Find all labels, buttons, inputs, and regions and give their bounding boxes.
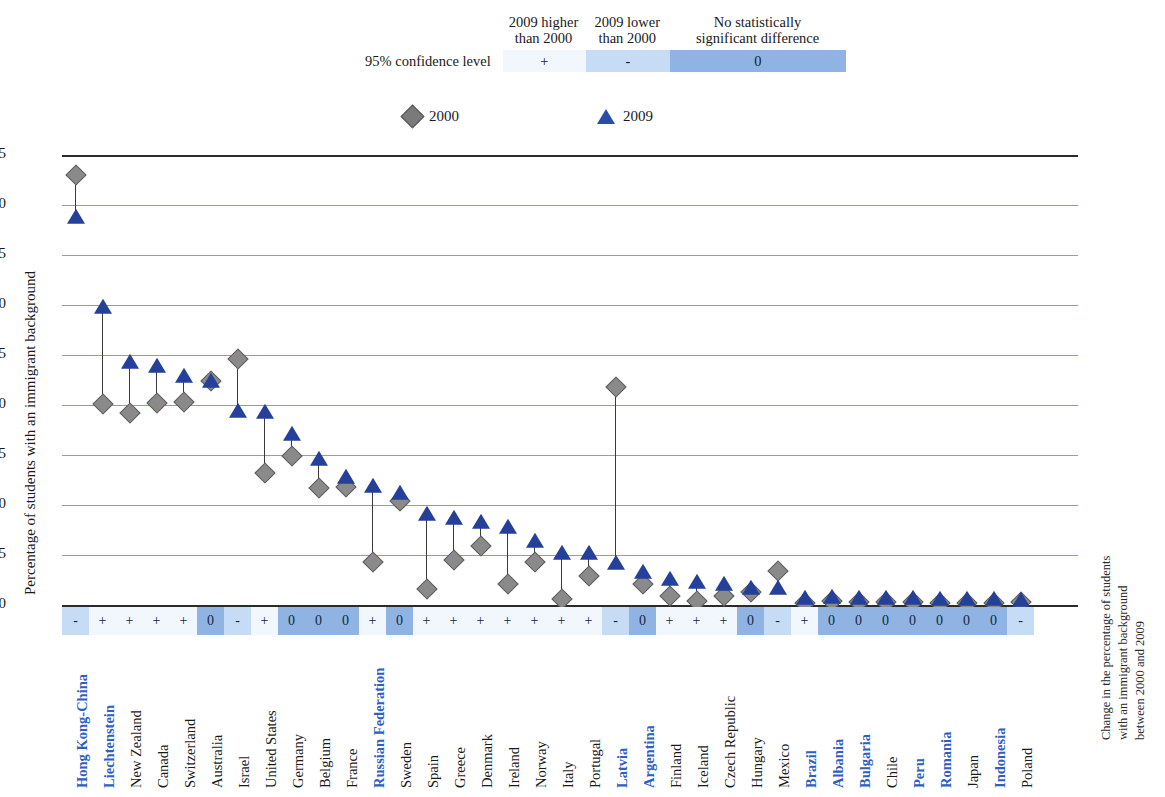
category-label: Argentina — [629, 640, 656, 790]
significance-cell: 0 — [953, 607, 980, 635]
category-label: Liechtenstein — [89, 640, 116, 790]
significance-cell: + — [359, 607, 386, 635]
point-2009 — [634, 564, 652, 579]
data-column — [980, 155, 1007, 605]
category-label: Czech Republic — [710, 640, 737, 790]
data-column — [467, 155, 494, 605]
point-2009 — [499, 519, 517, 534]
category-label: Italy — [548, 640, 575, 790]
significance-cell: 0 — [332, 607, 359, 635]
point-2000 — [362, 551, 383, 572]
y-tick-label-40: 40 — [0, 195, 6, 212]
significance-cell: + — [521, 607, 548, 635]
connector-stem — [615, 387, 616, 564]
point-2009 — [229, 403, 247, 418]
significance-strip: -++++0-+000+0+++++++-0+++0-+0000000- — [62, 607, 1034, 635]
chart-page: 2009 higher than 2000 2009 lower than 20… — [0, 0, 1165, 797]
y-tick-label-15: 15 — [0, 445, 6, 462]
category-label: Iceland — [683, 640, 710, 790]
category-label: Latvia — [602, 640, 629, 790]
category-label-text: Israel — [237, 756, 251, 788]
point-2000 — [659, 585, 680, 606]
category-label-text: Hong Kong-China — [75, 674, 89, 788]
category-label-text: Hungary — [750, 737, 764, 788]
significance-cell: + — [413, 607, 440, 635]
category-label: Sweden — [386, 640, 413, 790]
category-label-text: Czech Republic — [723, 696, 737, 788]
y-tick-label-5: 5 — [0, 545, 6, 562]
category-label-text: Liechtenstein — [102, 705, 116, 788]
point-2009 — [850, 590, 868, 605]
data-column — [116, 155, 143, 605]
point-2009 — [364, 478, 382, 493]
category-label-text: Albania — [831, 739, 845, 788]
significance-cell: 0 — [818, 607, 845, 635]
series-legend-2009-label: 2009 — [623, 108, 653, 125]
point-2009 — [283, 426, 301, 441]
legend-header-higher: 2009 higher than 2000 — [502, 14, 586, 46]
category-label-text: Russian Federation — [372, 668, 386, 788]
point-2009 — [985, 591, 1003, 606]
category-label-text: Romania — [939, 732, 953, 788]
category-label-text: Denmark — [480, 734, 494, 788]
y-tick-label-20: 20 — [0, 395, 6, 412]
spacer — [316, 14, 502, 46]
triangle-marker-icon — [597, 109, 615, 124]
data-column — [926, 155, 953, 605]
point-2009 — [553, 545, 571, 560]
significance-cell: 0 — [926, 607, 953, 635]
category-label: Romania — [926, 640, 953, 790]
data-column — [143, 155, 170, 605]
category-label: Hong Kong-China — [62, 640, 89, 790]
category-label: Mexico — [764, 640, 791, 790]
category-label-text: Japan — [966, 755, 980, 788]
category-label-text: Iceland — [696, 745, 710, 788]
significance-cell: + — [89, 607, 116, 635]
category-label: Denmark — [467, 640, 494, 790]
point-2000 — [416, 578, 437, 599]
significance-cell: + — [143, 607, 170, 635]
point-2000 — [254, 462, 275, 483]
data-column — [359, 155, 386, 605]
category-label: Portugal — [575, 640, 602, 790]
point-2000 — [227, 348, 248, 369]
significance-cell: - — [1007, 607, 1034, 635]
category-label: Australia — [197, 640, 224, 790]
data-column — [710, 155, 737, 605]
category-label: Israel — [224, 640, 251, 790]
category-label-text: Germany — [291, 734, 305, 788]
series-legend-2000: 2000 — [404, 108, 459, 125]
point-2000 — [497, 573, 518, 594]
category-label-text: United States — [264, 710, 278, 788]
significance-cell: 0 — [737, 607, 764, 635]
point-2009 — [742, 580, 760, 595]
point-2009 — [931, 591, 949, 606]
point-2009 — [202, 373, 220, 388]
point-2009 — [337, 469, 355, 484]
legend-swatch-minus: - — [586, 50, 669, 72]
point-2000 — [524, 551, 545, 572]
point-2000 — [173, 391, 194, 412]
category-label-text: Norway — [534, 741, 548, 788]
category-label-text: Indonesia — [993, 728, 1007, 788]
right-axis-title-line: Change in the percentage of students — [1098, 556, 1115, 740]
category-label: Brazil — [791, 640, 818, 790]
y-tick-label-45: 45 — [0, 145, 6, 162]
category-label-text: Ireland — [507, 747, 521, 788]
category-label: Peru — [899, 640, 926, 790]
category-label: Switzerland — [170, 640, 197, 790]
point-2000 — [443, 549, 464, 570]
category-label: Norway — [521, 640, 548, 790]
y-tick-label-10: 10 — [0, 495, 6, 512]
significance-cell: 0 — [629, 607, 656, 635]
data-column — [953, 155, 980, 605]
data-column — [440, 155, 467, 605]
point-2009 — [310, 451, 328, 466]
category-label-text: Argentina — [642, 725, 656, 788]
data-column — [89, 155, 116, 605]
plot-area: 454035302520151050 — [62, 155, 1078, 605]
point-2009 — [526, 533, 544, 548]
category-label: Albania — [818, 640, 845, 790]
y-tick-label-25: 25 — [0, 345, 6, 362]
data-column — [818, 155, 845, 605]
